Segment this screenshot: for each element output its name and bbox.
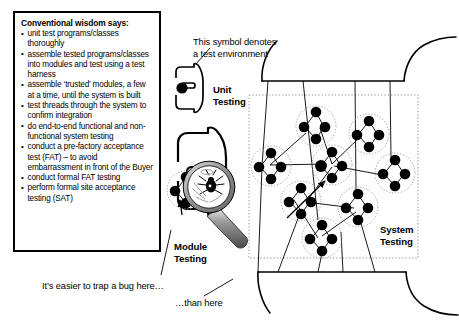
node-cluster	[302, 218, 342, 258]
unit-testing-dot	[176, 82, 187, 93]
system-testing-label: System Testing	[380, 224, 414, 247]
node-cluster	[375, 153, 415, 193]
conventional-wisdom-box: Conventional wisdom says: unit test prog…	[13, 11, 161, 252]
node-cluster	[281, 181, 321, 221]
node-cluster	[349, 114, 389, 154]
diagram-canvas: Conventional wisdom says: unit test prog…	[0, 0, 459, 321]
bottom-boundary-shape	[258, 272, 458, 315]
symbol-note-caption: This symbol denotes a test environment	[193, 37, 276, 60]
node-cluster	[251, 146, 291, 186]
than-here-caption: …than here	[175, 298, 223, 310]
wisdom-bullet: do end-to-end functional and non-functio…	[21, 122, 154, 143]
wisdom-bullet: conduct a pre-factory acceptance test (F…	[21, 142, 154, 173]
wisdom-bullet: unit test programs/classes thoroughly	[21, 29, 154, 50]
unit-testing-label: Unit Testing	[213, 84, 246, 107]
magnifying-glass-icon	[183, 161, 247, 248]
wisdom-heading: Conventional wisdom says:	[21, 18, 154, 28]
wisdom-bullet: perform formal site acceptance testing (…	[21, 183, 154, 204]
wisdom-bullet: conduct formal FAT testing	[21, 173, 154, 183]
wisdom-bullet: assemble ‘trusted’ modules, a few at a t…	[21, 80, 154, 101]
node-cluster	[312, 145, 352, 185]
node-cluster	[296, 106, 336, 146]
wisdom-bullet: assemble tested programs/classes into mo…	[21, 50, 154, 81]
wisdom-bullet: test threads through the system to confi…	[21, 101, 154, 122]
module-testing-label: Module Testing	[174, 241, 207, 264]
trap-bug-here-caption: It’s easier to trap a bug here…	[42, 281, 164, 293]
top-boundary-shape	[262, 37, 456, 81]
wisdom-bullet-list: unit test programs/classes thoroughly as…	[21, 29, 154, 204]
